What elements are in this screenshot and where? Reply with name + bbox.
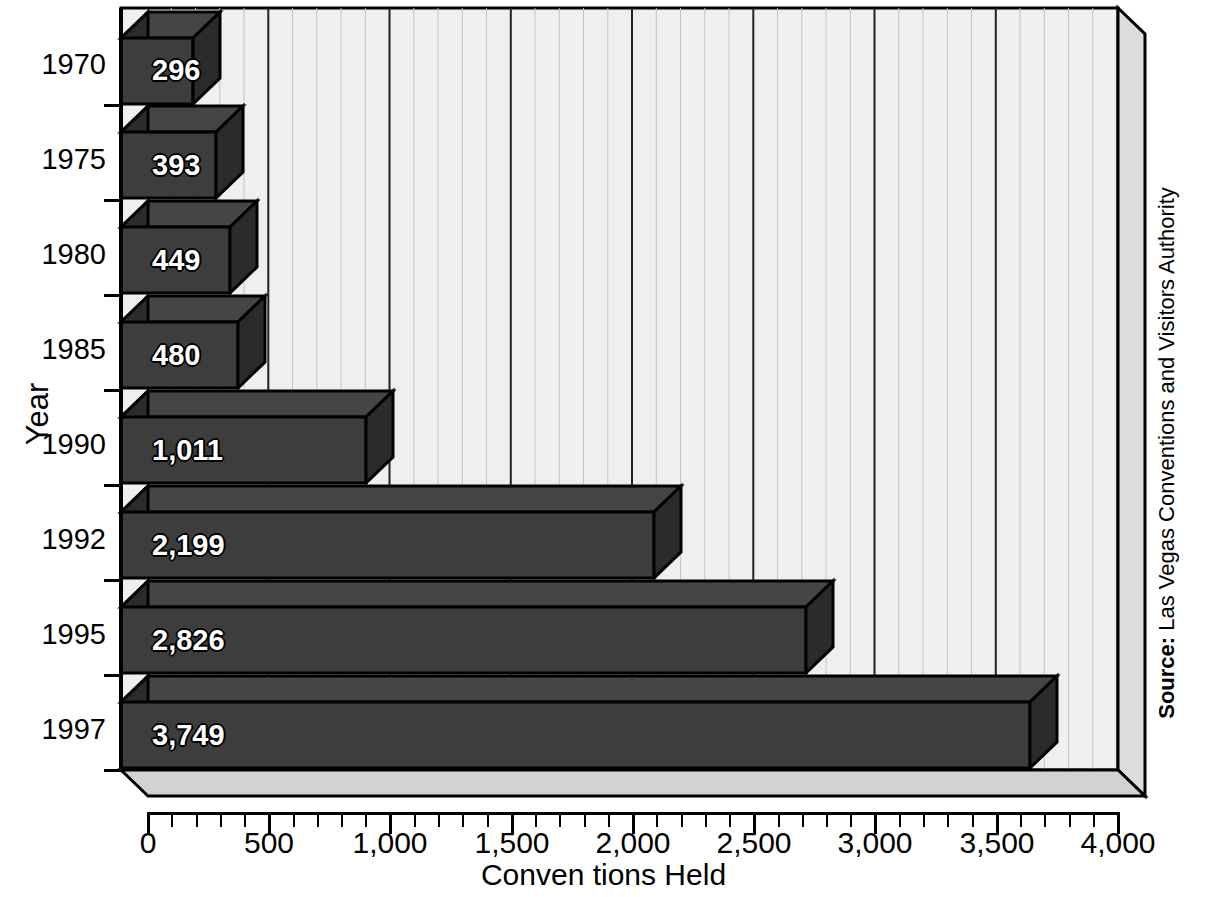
- bar-1990-top: [121, 391, 393, 417]
- source-text: Las Vegas Conventions and Visitors Autho…: [1154, 187, 1179, 637]
- x-tick-label-4000: 4,000: [1038, 826, 1198, 860]
- bar-1997[interactable]: [121, 676, 1057, 768]
- y-tick-7: [104, 769, 122, 772]
- x-axis-title: Conven tions Held: [0, 858, 1207, 892]
- bar-value-1990: 1,011: [152, 434, 223, 467]
- bar-value-1992: 2,199: [152, 529, 225, 562]
- bar-1997-top: [121, 676, 1057, 702]
- y-tick-0: [104, 104, 122, 107]
- category-label-1975: 1975: [28, 143, 106, 176]
- bar-value-1970: 296: [152, 54, 200, 87]
- bar-value-1995: 2,826: [152, 624, 225, 657]
- bar-1995-top: [121, 581, 833, 607]
- y-tick-4: [104, 484, 122, 487]
- bar-1995[interactable]: [121, 581, 833, 673]
- y-tick-2: [104, 294, 122, 297]
- category-label-1997: 1997: [28, 713, 106, 746]
- y-tick-1: [104, 199, 122, 202]
- category-label-1970: 1970: [28, 48, 106, 81]
- bar-value-1980: 449: [152, 244, 200, 277]
- bar-1997-front: [121, 702, 1030, 768]
- source-note: Source: Las Vegas Conventions and Visito…: [1154, 103, 1180, 803]
- y-tick-6: [104, 674, 122, 677]
- category-label-1995: 1995: [28, 618, 106, 651]
- chart-page: 1970 1975 1980 1985 1990 1992 1995 1997 …: [0, 0, 1207, 897]
- y-axis-title: Year: [20, 354, 56, 474]
- source-label: Source:: [1154, 637, 1179, 719]
- plot-floor: [121, 770, 1145, 796]
- plot-right-wall: [1118, 8, 1145, 796]
- bar-1992-top: [121, 486, 681, 512]
- category-label-1980: 1980: [28, 238, 106, 271]
- category-label-1992: 1992: [28, 523, 106, 556]
- y-tick-5: [104, 579, 122, 582]
- bar-value-1985: 480: [152, 339, 200, 372]
- bar-value-1975: 393: [152, 149, 200, 182]
- y-tick-3: [104, 389, 122, 392]
- bar-value-1997: 3,749: [152, 719, 225, 752]
